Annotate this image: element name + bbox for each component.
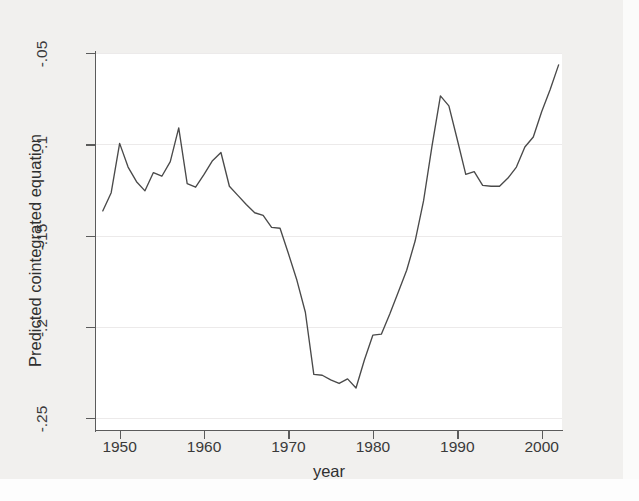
chart-figure: Predicted cointegrated equation -.05-.1-… <box>0 0 639 501</box>
y-tick-label-text: -.2 <box>33 319 51 337</box>
x-tick-label: 1990 <box>422 438 492 456</box>
y-tick-label-text: -.05 <box>33 41 51 68</box>
y-tick-label-text: -.25 <box>33 406 51 433</box>
scan-margin-right <box>623 0 639 501</box>
data-series-line <box>96 53 562 430</box>
x-tick-label: 2000 <box>507 438 577 456</box>
y-axis-line <box>95 51 96 432</box>
x-axis-title: year <box>96 462 562 481</box>
y-tick-label: -.15 <box>0 228 84 244</box>
x-tick-label: 1960 <box>169 438 239 456</box>
y-tick-mark-3 <box>86 327 95 328</box>
scan-margin-bottom <box>0 479 639 501</box>
y-tick-mark-2 <box>86 236 95 237</box>
x-tick-label: 1980 <box>338 438 408 456</box>
y-tick-label: -.05 <box>0 45 84 61</box>
x-tick-label: 1970 <box>253 438 323 456</box>
y-tick-label: -.25 <box>0 410 84 426</box>
x-tick-label: 1950 <box>85 438 155 456</box>
y-tick-label-text: -.1 <box>33 136 51 154</box>
y-tick-label: -.2 <box>0 319 84 335</box>
y-tick-label: -.1 <box>0 136 84 152</box>
y-tick-mark-1 <box>86 144 95 145</box>
y-tick-mark-0 <box>86 53 95 54</box>
y-tick-label-text: -.15 <box>33 223 51 250</box>
plot-area <box>96 53 562 430</box>
x-axis-line <box>95 430 563 431</box>
y-tick-mark-4 <box>86 418 95 419</box>
